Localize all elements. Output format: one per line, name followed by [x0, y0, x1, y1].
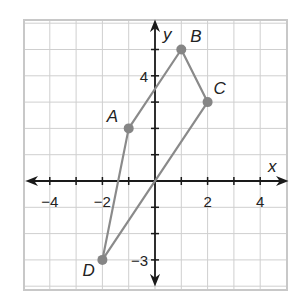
point-label-d: D	[82, 261, 94, 280]
tick-labels: −4−2244−3	[41, 68, 264, 269]
x-tick-label: −4	[41, 193, 58, 210]
y-tick-label: −3	[131, 252, 148, 269]
x-axis-label: x	[267, 157, 277, 176]
x-tick-label: −2	[94, 193, 111, 210]
point-c	[203, 97, 213, 107]
y-tick-label: 4	[140, 68, 148, 85]
point-label-a: A	[106, 107, 118, 126]
point-label-c: C	[214, 79, 227, 98]
point-b	[176, 45, 186, 55]
point-label-b: B	[190, 27, 201, 46]
x-tick-label: 2	[203, 193, 211, 210]
coordinate-plane: −4−2244−3 ABCD x y	[0, 0, 302, 303]
point-a	[124, 123, 134, 133]
graph-svg: −4−2244−3 ABCD x y	[0, 0, 302, 303]
axes	[28, 22, 286, 284]
y-axis-label: y	[162, 25, 173, 44]
point-d	[97, 255, 107, 265]
x-tick-label: 4	[256, 193, 264, 210]
